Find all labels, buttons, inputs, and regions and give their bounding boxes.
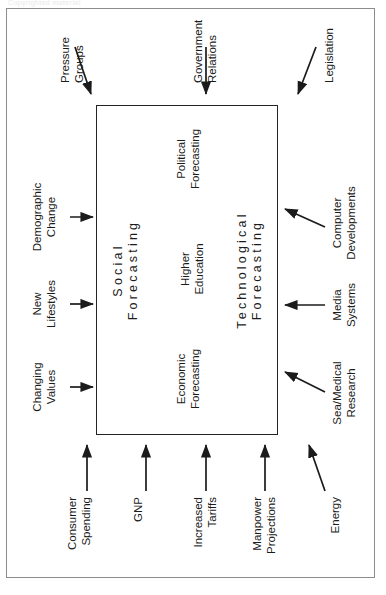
input-right-2-line1: Pressure (59, 0, 73, 83)
input-top-demographic-change: Demographic Change (31, 165, 58, 269)
input-left-4-line2: Spending (80, 497, 94, 595)
core-item-1-line2: Education (193, 214, 207, 324)
input-right-1-line2: Relations (206, 0, 220, 83)
input-left-manpower-projections: Manpower Projections (251, 497, 278, 595)
input-left-1-line2: Projections (265, 497, 279, 595)
input-top-2-line2: Change (45, 165, 59, 269)
core-item-political-forecasting: Political Forecasting (175, 104, 202, 214)
rotated-figure-canvas: Social Forecasting Economic Forecasting … (13, 17, 373, 577)
input-bottom-2-line2: Developments (345, 165, 359, 281)
input-left-1-line1: Manpower (251, 497, 265, 595)
input-bottom-2-line1: Computer (331, 165, 345, 281)
input-left-4-line1: Consumer (66, 497, 80, 595)
core-item-higher-education: Higher Education (179, 214, 206, 324)
input-left-2-line2: Tariffs (206, 497, 220, 595)
input-left-increased-tariffs: Increased Tariffs (192, 497, 219, 595)
core-title-bottom: Technological Forecasting (235, 106, 265, 434)
core-item-economic-forecasting: Economic Forecasting (175, 324, 202, 434)
input-right-legislation: Legislation (323, 0, 337, 83)
input-left-consumer-spending: Consumer Spending (66, 497, 93, 595)
core-item-0-line2: Forecasting (189, 324, 203, 434)
input-top-1-line2: Lifestyles (45, 254, 59, 354)
input-right-government-relations: Government Relations (192, 0, 219, 83)
input-left-gnp: GNP (132, 497, 146, 595)
input-bottom-computer-developments: Computer Developments (331, 165, 358, 281)
core-item-2-line2: Forecasting (189, 104, 203, 214)
input-right-pressure-groups: Pressure Groups (59, 0, 86, 83)
core-title-bottom-line1: Technological (235, 106, 250, 434)
core-item-0-line1: Economic (175, 324, 189, 434)
input-right-2-line2: Groups (73, 0, 87, 83)
input-right-0-line1: Legislation (323, 0, 337, 83)
input-left-0-line1: Energy (329, 497, 343, 595)
input-left-energy: Energy (329, 497, 343, 595)
core-item-2-line1: Political (175, 104, 189, 214)
input-left-3-line1: GNP (132, 497, 146, 595)
core-title-top-line1: Social (111, 106, 126, 434)
core-title-top: Social Forecasting (111, 106, 141, 434)
core-title-top-line2: Forecasting (126, 106, 141, 434)
input-top-2-line1: Demographic (31, 165, 45, 269)
core-item-1-line1: Higher (179, 214, 193, 324)
input-top-new-lifestyles: New Lifestyles (31, 254, 58, 354)
input-left-2-line1: Increased (192, 497, 206, 595)
core-box: Social Forecasting Economic Forecasting … (96, 105, 278, 435)
core-title-bottom-line2: Forecasting (250, 106, 265, 434)
input-right-1-line1: Government (192, 0, 206, 83)
input-top-1-line1: New (31, 254, 45, 354)
figure-page: Copyrighted material (0, 0, 386, 595)
